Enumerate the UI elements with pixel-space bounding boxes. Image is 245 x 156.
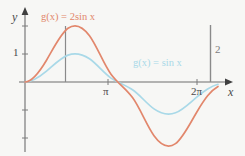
x-tick-label-pi: π [103, 86, 109, 97]
curve-sin-x [25, 54, 218, 114]
y-axis-label: y [12, 11, 17, 23]
y-axis [22, 7, 29, 152]
y-tick-label-1: 1 [13, 47, 19, 58]
curve-label-sin-x: g(x) = sin x [133, 58, 182, 69]
curve-2sin-x [25, 26, 218, 146]
amplitude-segment-label: 2 [215, 44, 221, 55]
plot-canvas [0, 0, 245, 156]
x-axis-label: x [228, 86, 233, 98]
curve-label-2sin-x: g(x) = 2sin x [41, 12, 95, 23]
sine-graph-figure: y x 1 π 2π 2 g(x) = 2sin x g(x) = sin x [0, 0, 245, 156]
y-axis-arrow-icon [22, 7, 29, 15]
x-tick-label-2pi: 2π [191, 86, 202, 97]
